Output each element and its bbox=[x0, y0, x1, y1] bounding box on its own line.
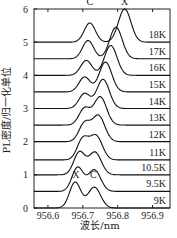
peak-label: X bbox=[72, 169, 80, 180]
x-tick-label: 956.6 bbox=[37, 210, 60, 221]
x-tick-label: 956.9 bbox=[141, 210, 164, 221]
peak-label: C bbox=[86, 0, 93, 7]
series-label: 9K bbox=[154, 195, 167, 206]
series-label: 11K bbox=[149, 147, 167, 158]
y-tick-label: 0 bbox=[23, 203, 28, 214]
axis-ticks: 956.6956.7956.8956.90123456 bbox=[23, 4, 164, 222]
peak-label: C bbox=[90, 169, 97, 180]
y-tick-label: 5 bbox=[23, 37, 28, 48]
y-tick-label: 1 bbox=[23, 169, 28, 180]
series-label: 10.5K bbox=[141, 162, 167, 173]
series-label: 18K bbox=[149, 29, 167, 40]
series-label: 17K bbox=[149, 46, 167, 57]
y-tick-label: 6 bbox=[23, 4, 28, 15]
x-axis-label: 波长/nm bbox=[80, 219, 120, 231]
peak-label: X bbox=[121, 0, 129, 7]
y-tick-label: 2 bbox=[23, 136, 28, 147]
series-label: 9.5K bbox=[146, 178, 167, 189]
series-label: 16K bbox=[149, 62, 167, 73]
series-label: 15K bbox=[149, 79, 167, 90]
y-tick-label: 3 bbox=[23, 103, 28, 114]
pl-spectra-chart: 956.6956.7956.8956.90123456 9K9.5K10.5K1… bbox=[0, 0, 177, 238]
y-tick-label: 4 bbox=[23, 70, 28, 81]
series-label: 13K bbox=[149, 112, 167, 123]
series-label: 12K bbox=[149, 129, 167, 140]
series-label: 14K bbox=[149, 96, 167, 107]
y-axis-label: PL密度/归一化单位 bbox=[0, 67, 12, 154]
